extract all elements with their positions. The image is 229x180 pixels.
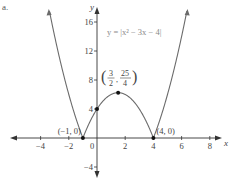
svg-text:,: ,	[116, 75, 118, 84]
equation-label: y = |x² − 3x − 4|	[107, 27, 162, 37]
point-label-neg1-0: (−1, 0)	[58, 126, 81, 136]
x-tick-label: −4	[36, 141, 46, 151]
x-tick-label: 2	[123, 141, 127, 151]
vertex-label: (32,254)	[101, 68, 137, 88]
function-graph: a. xy−4−202468−4481216(−1, 0)(4, 0)(32,2…	[0, 0, 229, 180]
y-tick-label: 8	[89, 75, 93, 85]
y-axis-down-arrow-icon	[95, 171, 100, 178]
svg-text:3: 3	[109, 69, 113, 78]
marked-point	[81, 136, 85, 140]
y-tick-label: 12	[85, 46, 94, 56]
svg-text:(: (	[101, 68, 106, 86]
marked-point	[151, 136, 155, 140]
x-axis-right-arrow-icon	[215, 136, 222, 141]
y-axis-up-arrow-icon	[95, 7, 100, 14]
point-label-4-0: (4, 0)	[156, 126, 175, 136]
x-tick-label: 4	[151, 141, 156, 151]
marked-point	[116, 91, 120, 95]
x-tick-label: −2	[64, 141, 73, 151]
x-axis-left-arrow-icon	[10, 136, 17, 141]
plot-area: xy−4−202468−4481216(−1, 0)(4, 0)(32,254)…	[0, 0, 229, 180]
svg-text:): )	[132, 68, 137, 86]
y-axis-label: y	[89, 2, 94, 12]
curve-left-arrow-icon	[47, 9, 52, 16]
x-tick-label: 8	[208, 141, 212, 151]
marked-point	[95, 107, 99, 111]
part-label: a.	[2, 2, 8, 12]
x-axis-label: x	[223, 138, 228, 148]
svg-text:2: 2	[109, 79, 113, 88]
y-tick-label: 4	[89, 104, 94, 114]
function-curve	[47, 0, 189, 138]
y-tick-label: −4	[84, 162, 94, 172]
curve-right-arrow-icon	[185, 9, 190, 16]
x-tick-label: 0	[90, 141, 94, 151]
svg-text:4: 4	[123, 79, 127, 88]
svg-text:25: 25	[121, 69, 129, 78]
x-tick-label: 6	[179, 141, 183, 151]
y-tick-label: 16	[85, 17, 94, 27]
